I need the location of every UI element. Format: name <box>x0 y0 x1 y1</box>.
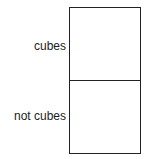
partition-divider <box>69 80 141 81</box>
cell-label-cubes: cubes <box>34 39 66 53</box>
cell-label-not-cubes: not cubes <box>14 109 66 123</box>
